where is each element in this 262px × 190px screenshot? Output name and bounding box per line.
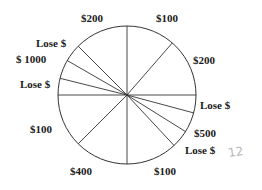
sector-label: $100 [156, 13, 178, 24]
sector-label: $ 1000 [16, 54, 46, 65]
wheel-spokes [58, 26, 196, 164]
prize-wheel [0, 0, 262, 190]
sector-label: $400 [70, 166, 92, 177]
wheel-spoke [60, 78, 127, 95]
wheel-spoke [127, 43, 172, 95]
sector-label: $200 [193, 55, 215, 66]
handwritten-annotation: 12 [227, 144, 244, 160]
sector-label: $100 [30, 124, 52, 135]
sector-label: $500 [194, 128, 216, 139]
wheel-spoke [127, 95, 194, 113]
sector-label: Lose $ [200, 100, 230, 111]
sector-label: Lose $ [185, 145, 215, 156]
wheel-spoke [78, 95, 127, 144]
sector-label: Lose $ [20, 79, 50, 90]
sector-label: $100 [154, 166, 176, 177]
sector-label: $200 [81, 13, 103, 24]
sector-label: Lose $ [36, 38, 66, 49]
